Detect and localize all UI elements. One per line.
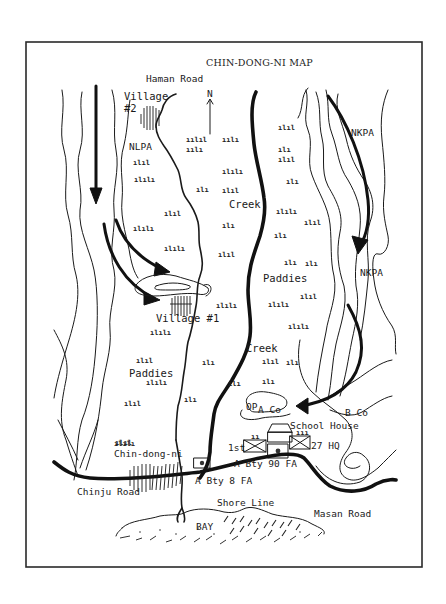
label-paddies-east: Paddies — [263, 272, 307, 284]
svg-text:ılılı: ılılı — [222, 168, 243, 176]
svg-text:ılı: ılı — [262, 378, 275, 386]
svg-text:ılıl: ılıl — [164, 210, 181, 218]
label-nkpa-lower: NKPA — [360, 267, 383, 278]
svg-text:ılılı: ılılı — [276, 208, 297, 216]
svg-text:ılılı: ılılı — [146, 379, 167, 387]
label-chin-dong-ni: Chin-dong-ni — [114, 448, 183, 459]
label-village-2-number: #2 — [124, 102, 137, 114]
label-b-co: B Co — [345, 407, 368, 418]
svg-text:ılılı: ılılı — [164, 245, 185, 253]
label-creek-upper: Creek — [229, 198, 261, 210]
label-nkpa-upper: NKPA — [351, 127, 374, 138]
svg-text:ılı: ılı — [286, 359, 299, 367]
svg-text:ılı: ılı — [284, 259, 297, 267]
svg-text:ılı: ılı — [274, 232, 287, 240]
label-chinju-road: Chinju Road — [77, 486, 140, 497]
svg-text:ılılı: ılılı — [288, 323, 309, 331]
svg-text:ılı: ılı — [184, 396, 197, 404]
label-haman-road: Haman Road — [146, 73, 203, 84]
svg-text:ılıl: ılıl — [300, 293, 317, 301]
svg-text:ıı: ıı — [251, 433, 259, 441]
label-a-co: A Co — [258, 404, 281, 415]
svg-text:ılıl: ılıl — [124, 400, 141, 408]
svg-text:ılı: ılı — [228, 380, 241, 388]
label-27-hq: 27 HQ — [311, 440, 340, 451]
label-a-bty-90-fa: A Bty 90 FA — [234, 458, 297, 469]
label-nlpa: NLPA — [129, 141, 152, 152]
svg-text:ılıl: ılıl — [136, 357, 153, 365]
label-creek-lower: Creek — [246, 342, 278, 354]
svg-text:ılılı: ılılı — [133, 225, 154, 233]
label-1st: 1st — [228, 442, 245, 453]
svg-text:ılılı: ılılı — [150, 329, 171, 337]
svg-text:ılı: ılı — [278, 146, 291, 154]
north-label: N — [207, 88, 213, 99]
svg-text:ılıl: ılıl — [262, 358, 279, 366]
label-bay: BAY — [196, 521, 213, 532]
svg-text:ılılı: ılılı — [216, 302, 237, 310]
svg-text:ılı: ılı — [202, 359, 215, 367]
svg-text:ılı: ılı — [305, 260, 318, 268]
chin-dong-ni-map: CHIN-DONG-NI MAP Haman Road N Village #2… — [0, 0, 446, 604]
svg-text:ılıl: ılıl — [133, 159, 150, 167]
label-village-1: Village #1 — [156, 312, 219, 324]
svg-text:ııı: ııı — [296, 429, 309, 437]
svg-text:ılılı: ılılı — [134, 176, 155, 184]
label-shore-line: Shore Line — [217, 497, 274, 508]
svg-text:ılı: ılı — [286, 178, 299, 186]
label-paddies-west: Paddies — [129, 367, 173, 379]
town-grass-mark: ılıl — [115, 439, 132, 447]
label-masan-road: Masan Road — [314, 508, 371, 519]
svg-text:ılı: ılı — [196, 186, 209, 194]
svg-text:ılılı: ılılı — [268, 301, 289, 309]
svg-text:ılıl: ılıl — [278, 124, 295, 132]
svg-text:ılı: ılı — [222, 222, 235, 230]
svg-text:ıılı: ıılı — [222, 136, 239, 144]
svg-text:ılıl: ılıl — [222, 187, 239, 195]
svg-text:ıılıl: ıılıl — [186, 136, 207, 144]
svg-text:ılıl: ılıl — [304, 219, 321, 227]
svg-text:ılıl: ılıl — [218, 251, 235, 259]
svg-text:ıılı: ıılı — [186, 146, 203, 154]
svg-text:ılıl: ılıl — [278, 156, 295, 164]
label-a-bty-8-fa: A Bty 8 FA — [195, 475, 252, 486]
label-village-2: Village — [124, 90, 168, 102]
map-title: CHIN-DONG-NI MAP — [206, 57, 313, 68]
label-op: OP — [246, 401, 258, 412]
